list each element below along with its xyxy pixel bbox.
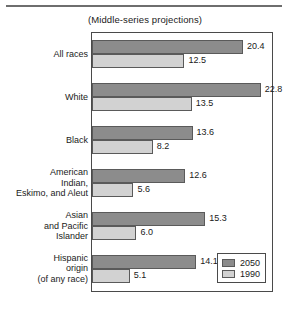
chart-title: (Middle-series projections) bbox=[88, 14, 202, 25]
bar-row: 12.6 bbox=[92, 169, 272, 183]
bar-value-label: 12.6 bbox=[189, 170, 207, 180]
bar-value-label: 13.6 bbox=[197, 127, 215, 137]
legend-item: 1990 bbox=[222, 268, 260, 279]
legend-label: 1990 bbox=[240, 269, 260, 279]
category-label: All races bbox=[0, 49, 88, 60]
bar-value-label: 12.5 bbox=[188, 55, 206, 65]
top-divider-rule bbox=[6, 5, 282, 7]
category-label: AmericanIndian,Eskimo, and Aleut bbox=[0, 167, 88, 199]
bar-value-label: 6.0 bbox=[140, 227, 153, 237]
bar-value-label: 15.3 bbox=[209, 213, 227, 223]
bar-value-label: 13.5 bbox=[196, 98, 214, 108]
category-label-line: (of any race) bbox=[0, 274, 88, 285]
legend-item: 2050 bbox=[222, 257, 260, 268]
bar-row: 13.6 bbox=[92, 126, 272, 140]
bar-row: 12.5 bbox=[92, 54, 272, 68]
legend-swatch-1990-icon bbox=[222, 270, 235, 278]
bar-group: 20.412.5 bbox=[92, 40, 272, 68]
bar-row: 22.8 bbox=[92, 83, 272, 97]
bar-1990 bbox=[92, 140, 153, 154]
bar-1990 bbox=[92, 183, 133, 197]
category-label-line: White bbox=[0, 92, 88, 103]
bar-value-label: 5.1 bbox=[134, 270, 147, 280]
bar-row: 13.5 bbox=[92, 97, 272, 111]
category-label-line: American bbox=[0, 167, 88, 178]
category-label: Hispanicorigin(of any race) bbox=[0, 253, 88, 285]
category-label: Black bbox=[0, 135, 88, 146]
bar-group: 13.68.2 bbox=[92, 126, 272, 154]
legend-swatch-2050-icon bbox=[222, 259, 235, 267]
category-label-line: Asian bbox=[0, 210, 88, 221]
category-label-line: Islander bbox=[0, 231, 88, 242]
bar-1990 bbox=[92, 226, 136, 240]
bar-2050 bbox=[92, 40, 243, 54]
bar-value-label: 14.1 bbox=[200, 256, 218, 266]
bar-value-label: 5.6 bbox=[137, 184, 150, 194]
bar-1990 bbox=[92, 269, 130, 283]
bar-1990 bbox=[92, 54, 184, 68]
category-label-line: Black bbox=[0, 135, 88, 146]
bar-row: 6.0 bbox=[92, 226, 272, 240]
category-label-line: origin bbox=[0, 263, 88, 274]
bar-row: 20.4 bbox=[92, 40, 272, 54]
bar-row: 8.2 bbox=[92, 140, 272, 154]
bar-group: 22.813.5 bbox=[92, 83, 272, 111]
category-label-line: Eskimo, and Aleut bbox=[0, 188, 88, 199]
chart-legend: 2050 1990 bbox=[217, 253, 266, 283]
bar-group: 15.36.0 bbox=[92, 212, 272, 240]
category-axis-labels: All racesWhiteBlackAmericanIndian,Eskimo… bbox=[0, 32, 88, 292]
category-label-line: All races bbox=[0, 49, 88, 60]
bar-group: 12.65.6 bbox=[92, 169, 272, 197]
category-label-line: and Pacific bbox=[0, 221, 88, 232]
bar-row: 5.6 bbox=[92, 183, 272, 197]
chart-figure: (Middle-series projections) All racesWhi… bbox=[0, 0, 288, 311]
category-label-line: Hispanic bbox=[0, 253, 88, 264]
bar-1990 bbox=[92, 97, 192, 111]
bar-value-label: 22.8 bbox=[265, 84, 283, 94]
legend-label: 2050 bbox=[240, 258, 260, 268]
category-label: White bbox=[0, 92, 88, 103]
bar-value-label: 8.2 bbox=[157, 141, 170, 151]
bar-2050 bbox=[92, 255, 196, 269]
bar-row: 15.3 bbox=[92, 212, 272, 226]
bar-2050 bbox=[92, 126, 193, 140]
plot-area: 20.412.522.813.513.68.212.65.615.36.014.… bbox=[91, 32, 273, 292]
category-label-line: Indian, bbox=[0, 178, 88, 189]
category-label: Asianand PacificIslander bbox=[0, 210, 88, 242]
bar-2050 bbox=[92, 83, 261, 97]
bar-value-label: 20.4 bbox=[247, 41, 265, 51]
bar-2050 bbox=[92, 212, 205, 226]
bar-2050 bbox=[92, 169, 185, 183]
